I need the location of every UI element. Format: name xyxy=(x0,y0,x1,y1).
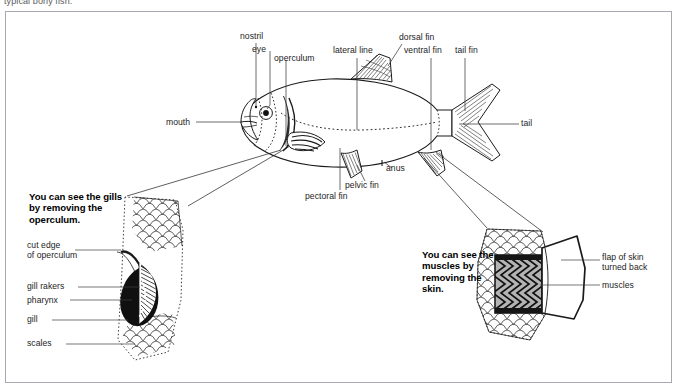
label-pelvic-fin: pelvic fin xyxy=(345,180,379,190)
label-cut-edge-of-operculum: cut edge of operculum xyxy=(27,240,97,260)
muscle-panel-heading: You can see the muscles by removing the … xyxy=(422,249,496,295)
label-mouth: mouth xyxy=(166,117,190,127)
diagram-page: typical bony fish. xyxy=(0,0,681,386)
muscle-block-top-band xyxy=(495,255,542,260)
fish-ventral-fin xyxy=(418,150,445,176)
label-flap-of-skin: flap of skin turned back xyxy=(602,252,672,272)
label-gill: gill xyxy=(27,314,38,324)
label-scales: scales xyxy=(27,338,52,348)
muscle-inset-panel xyxy=(424,152,600,340)
label-tail-fin: tail fin xyxy=(455,45,478,55)
label-tail: tail xyxy=(521,118,532,128)
label-eye: eye xyxy=(252,44,266,54)
label-lateral-line: lateral line xyxy=(333,45,373,55)
label-ventral-fin: ventral fin xyxy=(404,45,442,55)
gill-connector-top xyxy=(127,150,281,196)
label-muscles: muscles xyxy=(602,280,634,290)
leader-dorsal-fin xyxy=(388,44,402,66)
label-dorsal-fin: dorsal fin xyxy=(399,32,434,42)
label-nostril: nostril xyxy=(240,31,263,41)
muscle-connector-left xyxy=(424,158,487,228)
fish-body-group xyxy=(241,54,500,178)
gill-panel-heading: You can see the gills by removing the op… xyxy=(29,191,133,225)
muscle-connector-right xyxy=(436,152,543,232)
label-pharynx: pharynx xyxy=(27,295,58,305)
fish-nostril xyxy=(255,106,257,108)
gill-connector-bottom xyxy=(188,146,290,206)
fish-tail-fin xyxy=(452,84,500,161)
muscle-block-bottom-band xyxy=(495,308,542,313)
label-operculum: operculum xyxy=(274,53,315,63)
label-pectoral-fin: pectoral fin xyxy=(305,191,348,201)
label-anus: anus xyxy=(386,163,405,173)
fish-eye-pupil xyxy=(263,110,269,116)
label-gill-rakers: gill rakers xyxy=(27,281,64,291)
